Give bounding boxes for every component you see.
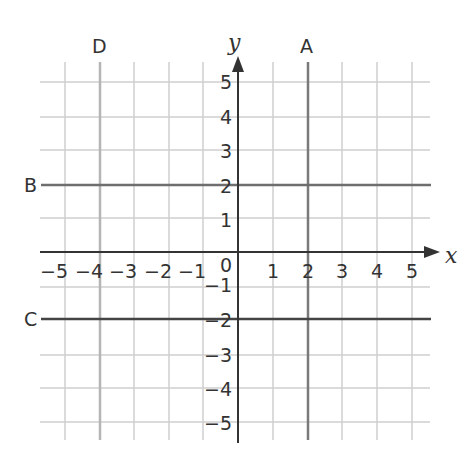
x-axis-arrow-icon (424, 246, 440, 258)
coordinate-grid: x y A D B C −5 −4 −3 −2 −1 0 1 2 3 4 5 5… (0, 0, 469, 460)
y-tick-m4: −4 (204, 378, 232, 400)
y-tick-m3: −3 (204, 344, 232, 366)
x-tick-p4: 4 (371, 260, 383, 282)
x-tick-p3: 3 (336, 260, 348, 282)
x-tick-m3: −3 (109, 260, 137, 282)
x-axis-label: x (445, 243, 458, 268)
y-tick-m5: −5 (204, 412, 232, 434)
x-tick-m4: −4 (75, 260, 103, 282)
y-tick-m2: −2 (204, 309, 232, 331)
x-tick-m1: −1 (178, 260, 206, 282)
line-a-label: A (300, 35, 313, 57)
x-tick-p1: 1 (267, 260, 279, 282)
y-tick-m1: −1 (204, 274, 232, 296)
x-tick-m2: −2 (144, 260, 172, 282)
y-axis-label: y (227, 30, 241, 55)
y-tick-p4: 4 (220, 106, 232, 128)
line-c-label: C (24, 308, 37, 330)
x-tick-p5: 5 (406, 260, 418, 282)
y-tick-p3: 3 (220, 140, 232, 162)
line-d-label: D (92, 35, 107, 57)
y-axis-arrow-icon (232, 56, 244, 72)
x-tick-p2: 2 (302, 260, 314, 282)
y-tick-p2: 2 (220, 175, 232, 197)
x-tick-m5: −5 (40, 260, 68, 282)
origin-label: 0 (220, 254, 232, 276)
y-tick-p1: 1 (220, 209, 232, 231)
y-tick-p5: 5 (220, 71, 232, 93)
line-b-label: B (24, 174, 37, 196)
